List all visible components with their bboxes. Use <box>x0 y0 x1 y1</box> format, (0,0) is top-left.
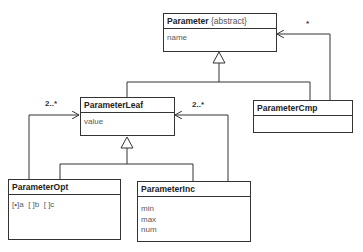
class-parameter-opt: ParameterOpt [•]a [ ]b [ ]c <box>8 179 121 240</box>
class-parameter-leaf: ParameterLeaf value <box>80 97 175 136</box>
association-inc-to-leaf <box>175 115 228 181</box>
generalization-to-parameter-leaf <box>60 137 193 181</box>
attribute-options: [•]a [ ]b [ ]c <box>12 200 117 211</box>
class-name: ParameterLeaf <box>84 100 143 110</box>
class-header: ParameterOpt <box>9 180 120 195</box>
class-parameter-inc: ParameterInc min max num <box>137 181 251 242</box>
class-parameter-cmp: ParameterCmp <box>253 100 353 133</box>
class-name: ParameterOpt <box>12 182 68 192</box>
class-attributes <box>254 116 352 119</box>
class-header: Parameter {abstract} <box>164 14 276 29</box>
class-header: ParameterLeaf <box>81 98 174 113</box>
class-attributes: value <box>81 113 174 128</box>
class-name: ParameterInc <box>141 184 195 194</box>
attribute: name <box>167 33 273 44</box>
inheritance-triangle-icon <box>121 137 133 148</box>
attribute: max <box>141 215 247 226</box>
attribute: value <box>84 117 171 128</box>
multiplicity-label: 2..* <box>45 99 57 108</box>
class-attributes: [•]a [ ]b [ ]c <box>9 195 120 211</box>
association-opt-to-leaf <box>29 115 79 179</box>
generalization-to-parameter <box>127 52 310 100</box>
multiplicity-label: 2..* <box>192 100 204 109</box>
uml-class-diagram: Parameter {abstract} name ParameterLeaf … <box>0 0 363 252</box>
class-attributes: name <box>164 29 276 44</box>
class-parameter: Parameter {abstract} name <box>163 13 277 52</box>
class-attributes: min max num <box>138 197 250 236</box>
attribute: num <box>141 225 247 236</box>
association-cmp-to-parameter <box>277 34 330 100</box>
class-name: ParameterCmp <box>257 103 317 113</box>
class-stereotype: {abstract} <box>211 16 247 26</box>
attribute: min <box>141 204 247 215</box>
class-header: ParameterInc <box>138 182 250 197</box>
inheritance-triangle-icon <box>213 52 225 63</box>
class-header: ParameterCmp <box>254 101 352 116</box>
multiplicity-label: * <box>306 19 309 28</box>
class-name: Parameter <box>167 16 209 26</box>
